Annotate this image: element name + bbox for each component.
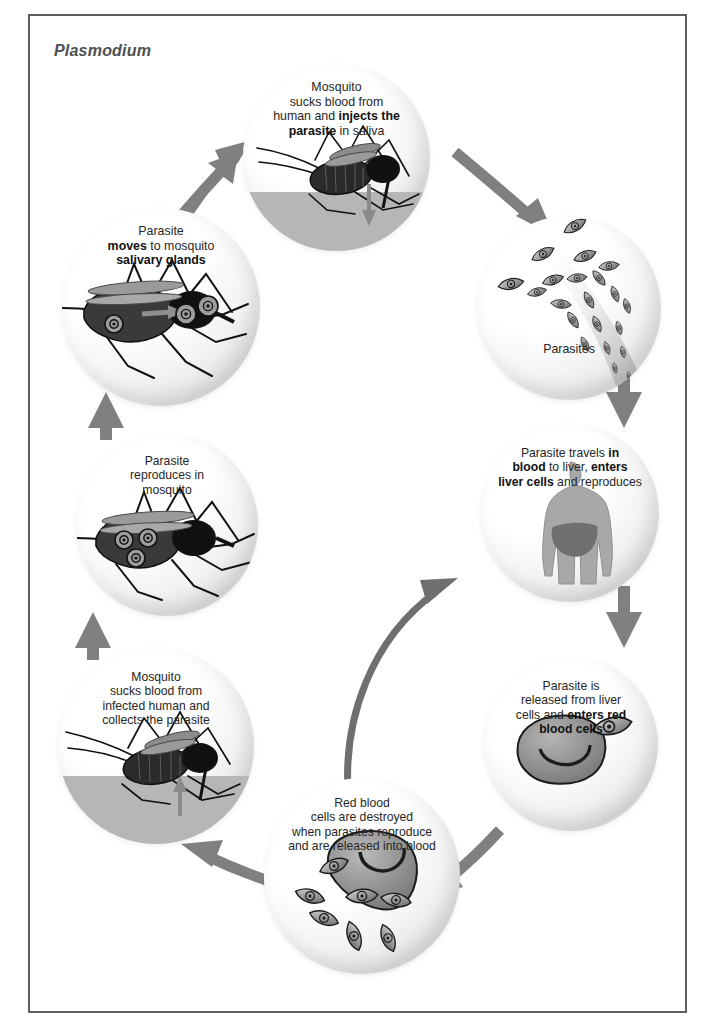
stage-parasites-in-blood: Parasites (477, 216, 661, 400)
stage-caption: Mosquitosucks blood frominfected human a… (58, 670, 254, 728)
stage-caption: Parasites (477, 342, 661, 357)
plasmodium-life-cycle-figure: Plasmodium (0, 0, 711, 1027)
stage-red-blood-cells-destroyed: Red bloodcells are destroyedwhen parasit… (264, 778, 460, 974)
arrow-destroyed-to-liver (348, 578, 458, 790)
parasite-swarm-icon (477, 216, 661, 400)
stage-parasite-reproduces-in-mosquito: Parasitereproduces inmosquito (76, 434, 258, 616)
stage-mosquito-injects-parasite: Mosquitosucks blood fromhuman and inject… (243, 64, 430, 251)
stage-parasite-moves-to-salivary-glands: Parasitemoves to mosquitosalivary glands (62, 208, 260, 406)
stage-caption: Parasitemoves to mosquitosalivary glands (62, 224, 260, 268)
stage-caption: Mosquitosucks blood fromhuman and inject… (243, 80, 430, 139)
stage-caption: Parasite isreleased from livercells and … (484, 679, 658, 737)
stage-mosquito-collects-parasite: Mosquitosucks blood frominfected human a… (58, 648, 254, 844)
stage-caption: Red bloodcells are destroyedwhen parasit… (264, 796, 460, 854)
stage-parasite-enters-liver: Parasite travels inblood to liver, enter… (481, 424, 659, 602)
stage-parasite-enters-red-blood-cells: Parasite isreleased from livercells and … (484, 657, 658, 831)
stage-caption: Parasite travels inblood to liver, enter… (481, 446, 659, 489)
stage-caption: Parasitereproduces inmosquito (76, 454, 258, 497)
bubble-sphere (477, 216, 661, 400)
